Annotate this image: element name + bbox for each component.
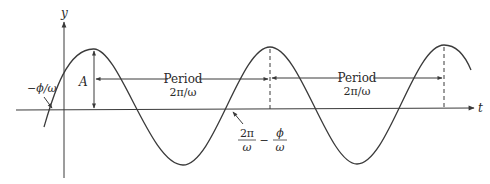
phase-offset-label: −ϕ/ω xyxy=(27,82,56,95)
crossing-label: 2π ω − ϕ ω xyxy=(238,127,287,154)
t-axis-label: t xyxy=(478,101,483,115)
svg-text:−: − xyxy=(259,134,268,147)
sinusoid-period-diagram: t y A −ϕ/ω Period 2π/ω Period 2π/ω 2π ω … xyxy=(0,0,490,184)
svg-text:ϕ: ϕ xyxy=(276,127,284,140)
svg-text:2π: 2π xyxy=(240,127,254,140)
y-axis-label: y xyxy=(60,6,68,20)
svg-text:ω: ω xyxy=(243,141,252,154)
t-axis xyxy=(16,108,474,110)
period-2-value: 2π/ω xyxy=(344,85,371,98)
period-2-title: Period xyxy=(337,71,376,85)
phase-offset-pointer xyxy=(44,97,52,108)
period-1-title: Period xyxy=(163,72,202,86)
amplitude-label: A xyxy=(78,75,88,89)
crossing-pointer xyxy=(233,112,243,124)
period-1-value: 2π/ω xyxy=(170,86,197,99)
svg-text:ω: ω xyxy=(276,141,285,154)
sinusoid-curve xyxy=(44,45,471,165)
